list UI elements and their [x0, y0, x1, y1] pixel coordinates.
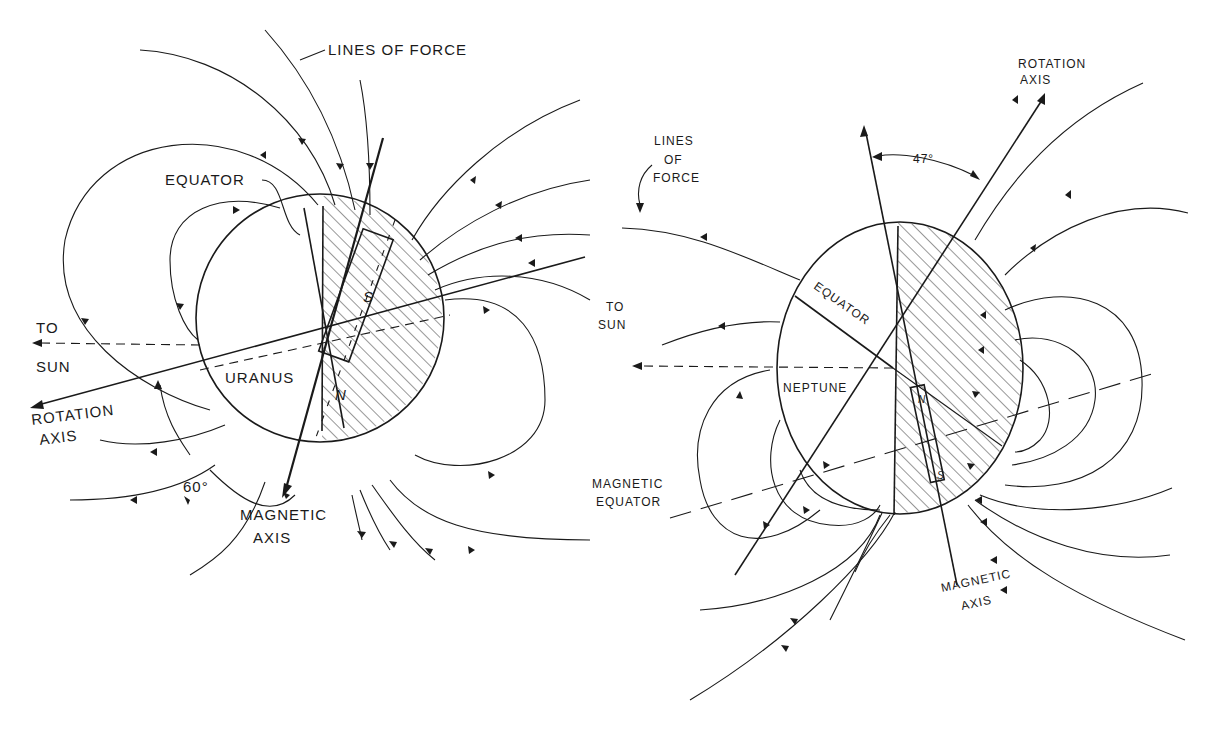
equator-label: EQUATOR — [165, 171, 245, 188]
magnetic-equator-label-1: MAGNETIC — [592, 477, 663, 491]
rotation-axis-label-2: AXIS — [38, 426, 78, 448]
magnetic-axis-label-1: MAGNETIC — [240, 506, 327, 523]
uranus-panel: S N — [30, 30, 590, 575]
angle-47-label: 47° — [913, 152, 934, 166]
neptune-magnetic-axis-label-2: AXIS — [960, 593, 994, 613]
angle-60-label: 60° — [183, 478, 209, 495]
to-sun-label-2: SUN — [36, 358, 71, 375]
lines-of-force-label-2: OF — [664, 153, 683, 167]
uranus-angle-arc — [160, 385, 190, 455]
uranus-planet-label: URANUS — [225, 369, 294, 386]
lines-of-force-label: LINES OF FORCE — [328, 41, 467, 58]
magnetic-equator-label-2: EQUATOR — [596, 495, 661, 509]
neptune-panel: N S — [592, 57, 1188, 700]
magnet-south-label: S — [363, 288, 373, 305]
neptune-magnet-north-label: N — [918, 394, 926, 405]
lines-of-force-label-3: FORCE — [653, 171, 700, 185]
rotation-axis-label-2: AXIS — [1020, 73, 1051, 87]
magnet-north-label: N — [335, 386, 346, 403]
rotation-axis-label-1: ROTATION — [1018, 57, 1086, 71]
magnetic-axis-label-2: AXIS — [253, 529, 291, 546]
neptune-magnet-south-label: S — [937, 470, 944, 481]
neptune-equator-label: EQUATOR — [811, 279, 872, 328]
uranus-planet: S N — [30, 138, 585, 498]
to-sun-label-1: TO — [36, 319, 59, 336]
lines-of-force-label-1: LINES — [654, 134, 694, 148]
magnetic-field-diagram: S N — [0, 0, 1209, 734]
to-sun-label-2: SUN — [598, 318, 626, 332]
to-sun-label-1: TO — [606, 300, 624, 314]
neptune-planet-label: NEPTUNE — [783, 381, 847, 395]
